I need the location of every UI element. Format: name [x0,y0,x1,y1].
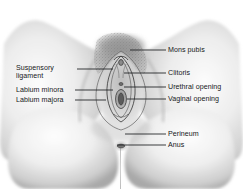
label-labium-majora: Labium majora [16,96,64,104]
label-suspensory-ligament-line1: Suspensory [16,64,54,72]
label-perineum: Perineum [168,130,199,138]
label-mons-pubis: Mons pubis [168,46,205,54]
figure-canvas: Suspensory ligament Labium minora Labium… [0,0,243,189]
vaginal-introitus [118,93,123,105]
label-anus: Anus [168,141,184,149]
label-clitoris: Clitoris [168,69,190,77]
label-vaginal-opening: Vaginal opening [168,95,219,103]
label-urethral-opening: Urethral opening [168,83,221,91]
urethral-opening-mark [119,83,123,86]
clitoris-glans [119,60,124,66]
label-suspensory-ligament-line2: ligament [16,72,43,80]
label-suspensory-ligament: Suspensory ligament [16,64,76,81]
label-labium-minora: Labium minora [16,86,64,94]
